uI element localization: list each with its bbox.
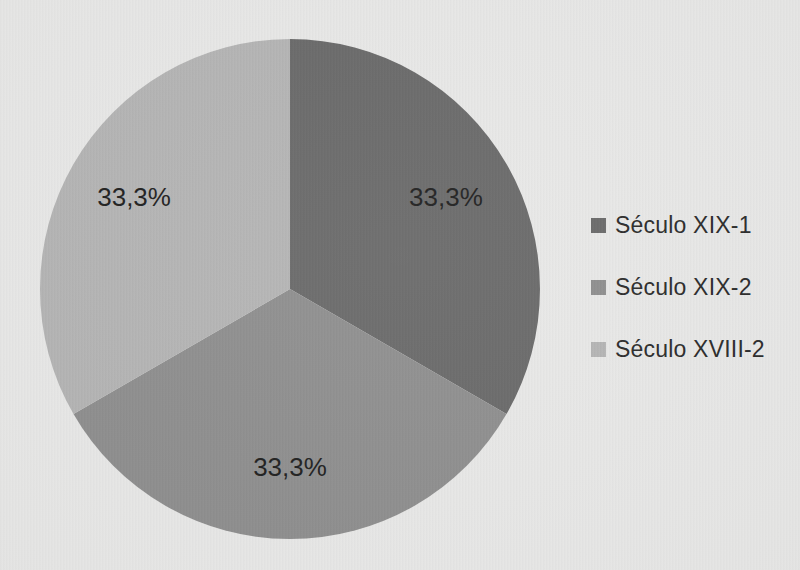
legend-label: Século XIX-2 [615,273,752,302]
slice-value-label: 33,3% [409,182,483,212]
chart-canvas: 33,3%33,3%33,3% Século XIX-1 Século XIX-… [0,0,800,570]
slice-value-label: 33,3% [253,452,327,482]
legend-swatch-icon [591,342,606,357]
legend-label: Século XIX-1 [615,211,752,240]
legend-item-seculo-xviii-2: Século XVIII-2 [591,335,765,364]
legend-swatch-icon [591,218,606,233]
legend: Século XIX-1 Século XIX-2 Século XVIII-2 [591,211,765,364]
legend-swatch-icon [591,280,606,295]
legend-item-seculo-xix-2: Século XIX-2 [591,273,765,302]
legend-item-seculo-xix-1: Século XIX-1 [591,211,765,240]
slice-value-label: 33,3% [97,182,171,212]
legend-label: Século XVIII-2 [615,335,765,364]
